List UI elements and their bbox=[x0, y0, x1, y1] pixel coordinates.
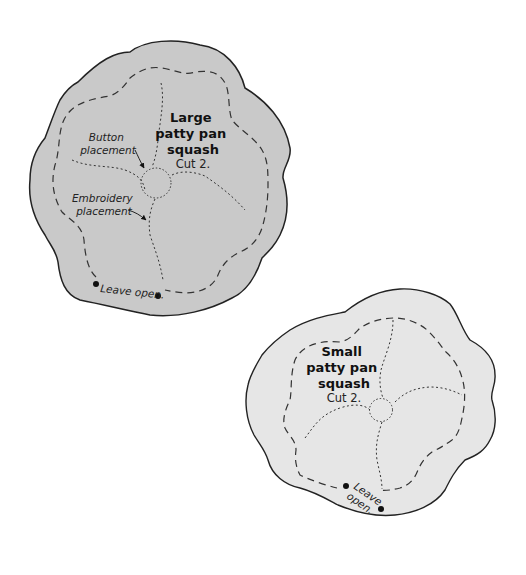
pattern-diagram: Large patty pan squash Cut 2. Button pla… bbox=[0, 0, 526, 575]
small-squash-piece: Small patty pan squash Cut 2. Leave open… bbox=[246, 289, 495, 520]
large-cut-label: Cut 2. bbox=[176, 157, 210, 171]
small-leave-open-dot-start bbox=[343, 483, 349, 489]
small-cut-label: Cut 2. bbox=[327, 391, 361, 405]
large-piece-outline bbox=[30, 41, 291, 316]
large-squash-piece: Large patty pan squash Cut 2. Button pla… bbox=[30, 41, 291, 316]
small-piece-outline bbox=[246, 289, 495, 516]
large-leave-open-dot-start bbox=[93, 281, 99, 287]
embroidery-placement-label: Embroidery placement bbox=[72, 192, 136, 217]
